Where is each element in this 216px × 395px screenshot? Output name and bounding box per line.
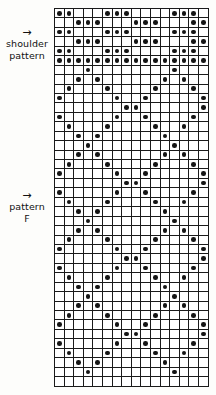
pattern-cell-empty[interactable] (112, 75, 122, 84)
pattern-cell-empty[interactable] (198, 131, 208, 140)
pattern-cell-empty[interactable] (170, 131, 180, 140)
pattern-cell-empty[interactable] (170, 226, 180, 235)
pattern-cell-empty[interactable] (170, 254, 180, 263)
pattern-cell-filled[interactable] (189, 9, 199, 18)
pattern-cell-filled[interactable] (179, 46, 189, 55)
pattern-cell-empty[interactable] (122, 122, 132, 131)
pattern-cell-filled[interactable] (83, 56, 93, 65)
pattern-cell-empty[interactable] (198, 273, 208, 282)
pattern-cell-filled[interactable] (179, 348, 189, 357)
pattern-cell-filled[interactable] (150, 37, 160, 46)
pattern-cell-empty[interactable] (160, 27, 170, 36)
pattern-cell-empty[interactable] (150, 141, 160, 150)
pattern-cell-filled[interactable] (55, 244, 65, 253)
pattern-cell-filled[interactable] (122, 56, 132, 65)
pattern-cell-filled[interactable] (74, 207, 84, 216)
pattern-cell-empty[interactable] (102, 377, 112, 386)
pattern-cell-empty[interactable] (122, 18, 132, 27)
pattern-cell-empty[interactable] (83, 84, 93, 93)
pattern-cell-empty[interactable] (83, 320, 93, 329)
pattern-cell-empty[interactable] (55, 348, 65, 357)
pattern-cell-empty[interactable] (160, 37, 170, 46)
pattern-cell-filled[interactable] (160, 75, 170, 84)
pattern-cell-empty[interactable] (55, 301, 65, 310)
pattern-cell-empty[interactable] (160, 93, 170, 102)
pattern-cell-empty[interactable] (55, 358, 65, 367)
pattern-cell-filled[interactable] (102, 122, 112, 131)
pattern-cell-empty[interactable] (55, 37, 65, 46)
pattern-cell-empty[interactable] (179, 377, 189, 386)
pattern-cell-empty[interactable] (122, 131, 132, 140)
pattern-cell-empty[interactable] (83, 178, 93, 187)
pattern-cell-filled[interactable] (112, 93, 122, 102)
pattern-cell-empty[interactable] (122, 226, 132, 235)
pattern-cell-empty[interactable] (141, 160, 151, 169)
pattern-cell-empty[interactable] (102, 207, 112, 216)
pattern-cell-filled[interactable] (122, 27, 132, 36)
pattern-cell-filled[interactable] (160, 226, 170, 235)
pattern-cell-filled[interactable] (102, 348, 112, 357)
pattern-cell-filled[interactable] (131, 178, 141, 187)
pattern-cell-filled[interactable] (141, 56, 151, 65)
pattern-cell-empty[interactable] (189, 329, 199, 338)
pattern-cell-empty[interactable] (160, 273, 170, 282)
pattern-cell-empty[interactable] (198, 141, 208, 150)
pattern-cell-empty[interactable] (55, 141, 65, 150)
pattern-cell-filled[interactable] (74, 301, 84, 310)
pattern-cell-empty[interactable] (64, 358, 74, 367)
pattern-cell-empty[interactable] (74, 311, 84, 320)
pattern-cell-empty[interactable] (198, 377, 208, 386)
pattern-cell-filled[interactable] (150, 235, 160, 244)
pattern-cell-filled[interactable] (170, 216, 180, 225)
pattern-cell-filled[interactable] (131, 254, 141, 263)
pattern-cell-empty[interactable] (102, 339, 112, 348)
pattern-cell-empty[interactable] (93, 235, 103, 244)
pattern-cell-empty[interactable] (198, 65, 208, 74)
pattern-cell-empty[interactable] (160, 103, 170, 112)
pattern-cell-empty[interactable] (160, 178, 170, 187)
pattern-cell-empty[interactable] (189, 122, 199, 131)
pattern-cell-empty[interactable] (93, 46, 103, 55)
pattern-cell-empty[interactable] (160, 235, 170, 244)
pattern-cell-empty[interactable] (74, 348, 84, 357)
pattern-cell-filled[interactable] (150, 84, 160, 93)
pattern-cell-empty[interactable] (160, 122, 170, 131)
pattern-cell-empty[interactable] (74, 103, 84, 112)
pattern-cell-empty[interactable] (198, 292, 208, 301)
pattern-cell-empty[interactable] (150, 216, 160, 225)
pattern-cell-empty[interactable] (122, 377, 132, 386)
pattern-cell-empty[interactable] (141, 122, 151, 131)
pattern-cell-filled[interactable] (189, 112, 199, 121)
pattern-cell-empty[interactable] (122, 311, 132, 320)
pattern-cell-empty[interactable] (131, 263, 141, 272)
pattern-cell-empty[interactable] (179, 131, 189, 140)
pattern-cell-empty[interactable] (64, 254, 74, 263)
pattern-cell-empty[interactable] (131, 84, 141, 93)
pattern-cell-empty[interactable] (64, 169, 74, 178)
pattern-cell-filled[interactable] (83, 216, 93, 225)
pattern-cell-filled[interactable] (64, 84, 74, 93)
pattern-cell-filled[interactable] (102, 84, 112, 93)
pattern-cell-filled[interactable] (141, 244, 151, 253)
pattern-cell-filled[interactable] (93, 56, 103, 65)
pattern-cell-empty[interactable] (170, 188, 180, 197)
pattern-cell-empty[interactable] (55, 103, 65, 112)
pattern-cell-empty[interactable] (102, 150, 112, 159)
pattern-cell-empty[interactable] (170, 311, 180, 320)
pattern-cell-empty[interactable] (198, 263, 208, 272)
pattern-cell-empty[interactable] (122, 358, 132, 367)
pattern-cell-empty[interactable] (122, 216, 132, 225)
pattern-cell-filled[interactable] (170, 65, 180, 74)
pattern-cell-filled[interactable] (64, 9, 74, 18)
pattern-cell-empty[interactable] (64, 329, 74, 338)
pattern-cell-filled[interactable] (64, 56, 74, 65)
pattern-cell-empty[interactable] (131, 348, 141, 357)
pattern-cell-empty[interactable] (131, 169, 141, 178)
pattern-cell-empty[interactable] (83, 226, 93, 235)
pattern-cell-empty[interactable] (160, 84, 170, 93)
pattern-cell-empty[interactable] (122, 263, 132, 272)
pattern-cell-empty[interactable] (83, 263, 93, 272)
pattern-cell-empty[interactable] (170, 122, 180, 131)
pattern-cell-filled[interactable] (93, 18, 103, 27)
pattern-cell-empty[interactable] (141, 329, 151, 338)
